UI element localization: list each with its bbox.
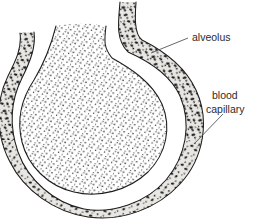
label-blood-capillary-line1: blood [212,89,238,101]
label-blood-capillary-line2: capillary [206,103,245,115]
alveolus-leader-line [151,38,188,53]
alveolus-capillary-diagram: alveolus blood capillary [0,0,263,219]
diagram-canvas: alveolus blood capillary [0,0,263,219]
label-alveolus: alveolus [192,31,231,43]
